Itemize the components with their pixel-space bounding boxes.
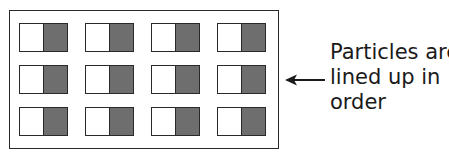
particle bbox=[217, 107, 266, 136]
arrow-left-icon bbox=[285, 73, 325, 87]
particle-dark-half bbox=[44, 108, 67, 135]
particle bbox=[85, 23, 134, 52]
particle bbox=[151, 65, 200, 94]
particle-dark-half bbox=[110, 66, 133, 93]
particle-light-half bbox=[152, 108, 176, 135]
particle-light-half bbox=[218, 66, 242, 93]
particle-light-half bbox=[20, 66, 44, 93]
label-line-3: order bbox=[330, 90, 449, 115]
particle bbox=[151, 107, 200, 136]
particle bbox=[19, 23, 68, 52]
particle-dark-half bbox=[242, 108, 265, 135]
particle-dark-half bbox=[44, 24, 67, 51]
label-line-1: Particles are bbox=[330, 40, 449, 65]
particle bbox=[19, 107, 68, 136]
particle-light-half bbox=[86, 108, 110, 135]
particle-light-half bbox=[218, 24, 242, 51]
particle-dark-half bbox=[110, 108, 133, 135]
particle-dark-half bbox=[242, 24, 265, 51]
particle bbox=[217, 65, 266, 94]
particle-light-half bbox=[86, 24, 110, 51]
particle-dark-half bbox=[176, 66, 199, 93]
particle-light-half bbox=[20, 108, 44, 135]
particle-light-half bbox=[152, 66, 176, 93]
particle-dark-half bbox=[44, 66, 67, 93]
particle-light-half bbox=[86, 66, 110, 93]
annotation-label: Particles are lined up in order bbox=[330, 40, 449, 115]
particle-dark-half bbox=[176, 108, 199, 135]
particle-dark-half bbox=[242, 66, 265, 93]
particle-light-half bbox=[218, 108, 242, 135]
particle bbox=[85, 107, 134, 136]
particle-grid bbox=[19, 23, 266, 136]
label-line-2: lined up in bbox=[330, 65, 449, 90]
particle-container bbox=[9, 10, 279, 149]
particle bbox=[217, 23, 266, 52]
particle-dark-half bbox=[110, 24, 133, 51]
particle bbox=[151, 23, 200, 52]
particle bbox=[85, 65, 134, 94]
particle bbox=[19, 65, 68, 94]
particle-dark-half bbox=[176, 24, 199, 51]
particle-light-half bbox=[20, 24, 44, 51]
particle-light-half bbox=[152, 24, 176, 51]
